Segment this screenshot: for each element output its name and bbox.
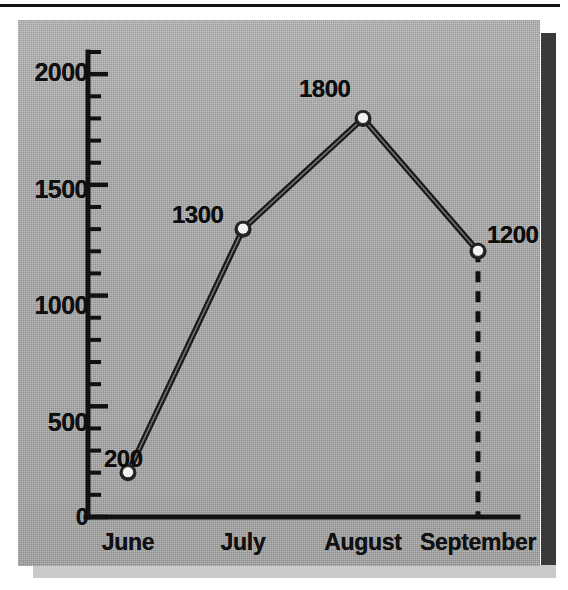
data-series-line [128, 118, 478, 472]
x-tick-label-september: September [420, 531, 536, 554]
point-label-september: 1200 [487, 223, 538, 247]
page-top-rule [0, 4, 560, 7]
y-tick-label-2000: 2000 [34, 60, 88, 85]
y-tick-label-0: 0 [76, 506, 88, 529]
y-tick-label-1000: 1000 [34, 293, 88, 318]
plot-area [18, 20, 540, 566]
x-tick-label-june: June [102, 531, 154, 554]
point-label-july: 1300 [172, 203, 223, 227]
y-tick-label-500: 500 [48, 410, 88, 435]
panel-drop-shadow-bottom [33, 565, 556, 578]
panel-drop-shadow-right [541, 33, 556, 570]
data-point-markers [120, 110, 487, 481]
point-label-june: 200 [104, 447, 143, 471]
figure-root: 2000 1500 1000 500 0 200 1300 1800 1200 … [0, 0, 568, 590]
chart-panel: 2000 1500 1000 500 0 200 1300 1800 1200 … [18, 20, 540, 566]
x-tick-label-july: July [221, 531, 266, 554]
x-tick-label-august: August [324, 531, 401, 554]
y-tick-label-1500: 1500 [34, 177, 88, 202]
point-label-august: 1800 [299, 77, 350, 101]
